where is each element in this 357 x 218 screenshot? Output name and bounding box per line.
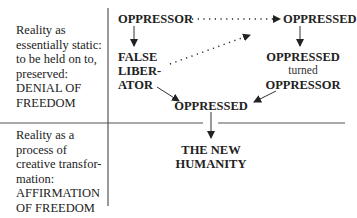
row-label-transformation: Reality as a process of creative transfo… <box>16 128 101 215</box>
arrow-turned-to-center <box>254 91 276 102</box>
node-oppressed-turned-bottom: OPPRESSOR <box>263 78 343 92</box>
node-oppressed-turned-top: OPPRESSED <box>263 50 343 64</box>
node-oppressed-top: OPPRESSED <box>283 12 357 26</box>
row-label-static: Reality as essentially static: to be hel… <box>16 23 102 110</box>
node-new-humanity: THE NEW HUMANITY <box>168 143 254 171</box>
dotted-arrow-liberator-to-oppressed <box>170 35 250 64</box>
node-turned: turned <box>263 64 343 76</box>
node-false-liberator: FALSE LIBER- ATOR <box>118 50 161 92</box>
node-oppressed-center: OPPRESSED <box>168 99 254 113</box>
node-oppressor: OPPRESSOR <box>118 12 193 26</box>
